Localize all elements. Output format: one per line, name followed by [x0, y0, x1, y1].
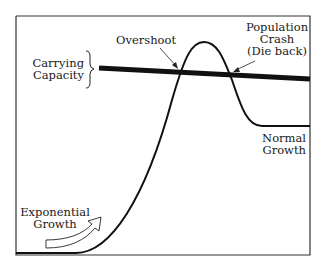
normal-growth-label: Normal Growth: [250, 132, 306, 156]
crash-arrow: [236, 61, 255, 70]
label-line: Growth: [250, 144, 306, 156]
crash-arrowhead-icon: [233, 67, 240, 72]
brace-icon: [86, 51, 94, 88]
label-line: (Die back): [242, 45, 312, 57]
population-crash-label: Population Crash (Die back): [242, 21, 312, 57]
exponential-growth-label: Exponential Growth: [18, 206, 92, 230]
overshoot-arrow: [160, 48, 176, 66]
label-line: Capacity: [28, 69, 84, 81]
carrying-capacity-label: Carrying Capacity: [28, 57, 84, 81]
label-line: Growth: [18, 218, 92, 230]
carrying-capacity-line: [99, 68, 310, 79]
overshoot-label: Overshoot: [116, 34, 176, 46]
